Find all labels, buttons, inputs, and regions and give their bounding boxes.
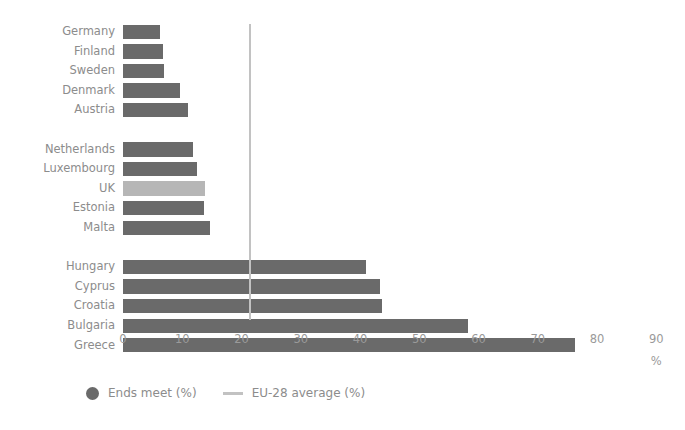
x-axis-tick-label: 90 <box>626 332 685 346</box>
x-axis: 0102030405060708090% <box>0 332 685 360</box>
category-label: Austria <box>0 100 123 120</box>
bar-track <box>123 257 685 277</box>
line-marker-icon <box>223 392 243 395</box>
plot-area: GermanyFinlandSwedenDenmarkAustriaNether… <box>0 22 685 332</box>
bar-track <box>123 100 685 120</box>
bar[interactable] <box>123 64 164 78</box>
dot-marker-icon <box>86 387 99 400</box>
category-label: Sweden <box>0 61 123 81</box>
bar-row: Luxembourg <box>0 159 685 179</box>
category-label: Luxembourg <box>0 159 123 179</box>
bar[interactable] <box>123 319 468 333</box>
category-label: UK <box>0 179 123 199</box>
legend-item-eu28-average[interactable]: EU-28 average (%) <box>223 386 365 400</box>
x-axis-tick-label: 80 <box>567 332 627 346</box>
bar-track <box>123 22 685 42</box>
category-label: Germany <box>0 22 123 42</box>
bar-row: Hungary <box>0 257 685 277</box>
bar[interactable] <box>123 260 366 274</box>
bar-row: Finland <box>0 42 685 62</box>
bar[interactable] <box>123 25 160 39</box>
group-gap <box>0 238 685 258</box>
category-label: Denmark <box>0 81 123 101</box>
bar-row: Austria <box>0 100 685 120</box>
bar-track <box>123 296 685 316</box>
category-label: Hungary <box>0 257 123 277</box>
group-gap <box>0 120 685 140</box>
x-axis-tick-label: 30 <box>271 332 331 346</box>
x-axis-tick-label: 50 <box>389 332 449 346</box>
bar-track <box>123 218 685 238</box>
bar-row: Germany <box>0 22 685 42</box>
legend-item-ends-meet[interactable]: Ends meet (%) <box>86 386 197 400</box>
legend-label-eu28-average: EU-28 average (%) <box>252 386 365 400</box>
x-axis-tick-label: 60 <box>449 332 509 346</box>
bar-track <box>123 140 685 160</box>
bar-track <box>123 42 685 62</box>
category-label: Estonia <box>0 198 123 218</box>
bar-row: Netherlands <box>0 140 685 160</box>
bar-track <box>123 61 685 81</box>
bar-track <box>123 277 685 297</box>
bar[interactable] <box>123 221 210 235</box>
x-axis-tick-label: 20 <box>212 332 272 346</box>
bar-row: UK <box>0 179 685 199</box>
bar[interactable] <box>123 44 163 58</box>
eu28-average-reference-line <box>249 24 251 320</box>
category-label: Finland <box>0 42 123 62</box>
bar-row: Malta <box>0 218 685 238</box>
bar-track <box>123 198 685 218</box>
chart-legend: Ends meet (%) EU-28 average (%) <box>86 386 365 400</box>
bar-rows: GermanyFinlandSwedenDenmarkAustriaNether… <box>0 22 685 355</box>
legend-label-ends-meet: Ends meet (%) <box>108 386 197 400</box>
bar-row: Cyprus <box>0 277 685 297</box>
category-label: Netherlands <box>0 140 123 160</box>
bar-row: Estonia <box>0 198 685 218</box>
bar-row: Croatia <box>0 296 685 316</box>
bar-track <box>123 159 685 179</box>
x-axis-tick-label: 0 <box>93 332 153 346</box>
bar-chart: GermanyFinlandSwedenDenmarkAustriaNether… <box>0 0 685 430</box>
x-axis-tick-label: 10 <box>152 332 212 346</box>
x-axis-unit-label: % <box>626 354 685 368</box>
bar[interactable] <box>123 83 180 97</box>
bar[interactable] <box>123 103 188 117</box>
bar[interactable] <box>123 279 380 293</box>
category-label: Croatia <box>0 296 123 316</box>
bar-track <box>123 81 685 101</box>
bar-track <box>123 179 685 199</box>
bar-row: Sweden <box>0 61 685 81</box>
category-label: Cyprus <box>0 277 123 297</box>
bar[interactable] <box>123 142 193 156</box>
category-label: Malta <box>0 218 123 238</box>
bar[interactable] <box>123 181 205 195</box>
bar[interactable] <box>123 162 197 176</box>
x-axis-tick-label: 70 <box>508 332 568 346</box>
x-axis-tick-label: 40 <box>330 332 390 346</box>
bar-row: Denmark <box>0 81 685 101</box>
bar[interactable] <box>123 201 204 215</box>
bar[interactable] <box>123 299 382 313</box>
